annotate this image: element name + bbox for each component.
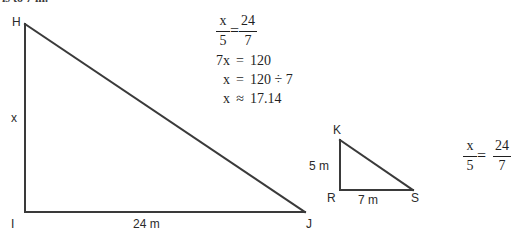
vertex-label-K: K bbox=[333, 124, 341, 136]
work-line-1-right: 24 7 bbox=[239, 14, 257, 48]
fraction-denominator: 7 bbox=[497, 159, 508, 174]
fraction-numerator: 24 bbox=[493, 139, 511, 154]
proportion-right: x 5 = 24 7 bbox=[461, 139, 511, 173]
work-line-4-lhs: x bbox=[196, 91, 230, 107]
worksheet-canvas: is to 7 in. H I J x 24 m K R S 5 m 7 m x bbox=[0, 0, 519, 241]
work-line-4: x ≈ 17.14 bbox=[196, 89, 293, 108]
work-line-3-relation: = bbox=[230, 72, 250, 88]
vertex-label-I: I bbox=[11, 218, 14, 230]
work-line-4-rhs: 17.14 bbox=[250, 91, 282, 107]
fraction-bar bbox=[239, 31, 257, 32]
triangle-KRS bbox=[340, 140, 413, 190]
side-label-24m: 24 m bbox=[133, 218, 160, 230]
side-label-7m: 7 m bbox=[358, 194, 378, 206]
proportion-right-row: x 5 = 24 7 bbox=[461, 139, 511, 173]
fraction-bar bbox=[216, 31, 230, 32]
work-line-2-rhs: 120 bbox=[250, 53, 271, 69]
solution-work: x 5 = 24 7 7x = 120 x = 120 ÷ 7 bbox=[196, 11, 293, 108]
work-line-1: x 5 = 24 7 bbox=[196, 11, 293, 51]
work-line-2-lhs: 7x bbox=[196, 53, 230, 69]
fraction-x-over-5: x 5 bbox=[216, 14, 230, 48]
proportion-right-right: 24 7 bbox=[493, 139, 511, 173]
work-line-2: 7x = 120 bbox=[196, 51, 293, 70]
work-line-2-relation: = bbox=[230, 53, 250, 69]
side-label-5m: 5 m bbox=[309, 160, 329, 172]
fraction-bar bbox=[463, 156, 477, 157]
fraction-bar bbox=[493, 156, 511, 157]
segment-KS bbox=[340, 140, 413, 190]
fraction-numerator: 24 bbox=[239, 14, 257, 29]
proportion-right-relation: = bbox=[477, 147, 493, 165]
fraction-24-over-7: 24 7 bbox=[493, 139, 511, 173]
fraction-x-over-5: x 5 bbox=[463, 139, 477, 173]
vertex-label-S: S bbox=[411, 192, 419, 204]
fraction-24-over-7: 24 7 bbox=[239, 14, 257, 48]
work-line-3-lhs: x bbox=[196, 72, 230, 88]
work-line-3: x = 120 ÷ 7 bbox=[196, 70, 293, 89]
vertex-label-H: H bbox=[12, 16, 21, 28]
vertex-label-J: J bbox=[306, 218, 312, 230]
side-label-x: x bbox=[11, 112, 17, 124]
work-line-4-relation: ≈ bbox=[230, 91, 250, 107]
fraction-denominator: 5 bbox=[465, 159, 476, 174]
work-line-1-relation: = bbox=[230, 22, 239, 40]
vertex-label-R: R bbox=[327, 192, 336, 204]
work-line-1-left: x 5 bbox=[196, 14, 230, 48]
fraction-numerator: x bbox=[218, 14, 229, 29]
fraction-denominator: 7 bbox=[243, 34, 254, 49]
proportion-right-left: x 5 bbox=[461, 139, 477, 173]
work-line-3-rhs: 120 ÷ 7 bbox=[250, 72, 293, 88]
fraction-numerator: x bbox=[465, 139, 476, 154]
fraction-denominator: 5 bbox=[218, 34, 229, 49]
